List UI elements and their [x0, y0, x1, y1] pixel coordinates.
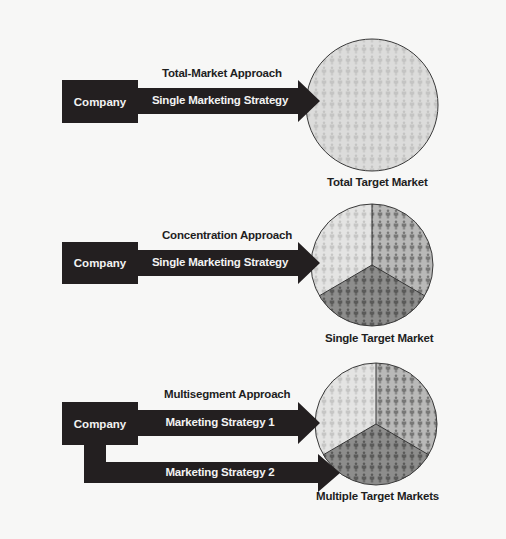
total-market-circle — [300, 35, 450, 175]
strategy-1-label: Marketing Strategy 1 — [140, 416, 300, 428]
single-strategy-label-2: Single Marketing Strategy — [140, 256, 300, 268]
multiple-target-markets-label: Multiple Target Markets — [316, 490, 439, 502]
company-box-2: Company — [62, 242, 138, 284]
total-target-market-label: Total Target Market — [327, 176, 428, 188]
single-target-market-label: Single Target Market — [325, 332, 433, 344]
single-target-market-pie — [307, 200, 437, 330]
multisegment-approach-title: Multisegment Approach — [164, 388, 290, 400]
single-strategy-label-1: Single Marketing Strategy — [140, 94, 300, 106]
company-box-1: Company — [62, 80, 138, 123]
company-box-3: Company — [62, 402, 138, 445]
strategy-2-label: Marketing Strategy 2 — [140, 466, 300, 478]
total-market-approach-title: Total-Market Approach — [162, 67, 282, 79]
concentration-approach-title: Concentration Approach — [162, 229, 292, 241]
